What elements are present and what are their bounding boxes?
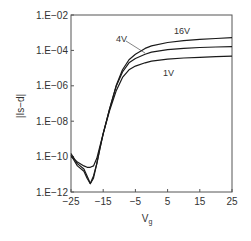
y-tick-label: 1.E−08 bbox=[36, 116, 68, 127]
series-label-4v: 4V bbox=[116, 34, 127, 44]
x-tick-label: −25 bbox=[63, 196, 80, 207]
series-lines bbox=[71, 38, 232, 184]
x-axis-label: Vg bbox=[142, 213, 153, 226]
x-tick-label: 25 bbox=[226, 196, 238, 207]
x-tick-label: 5 bbox=[165, 196, 171, 207]
x-tick-label: 15 bbox=[194, 196, 206, 207]
y-tick-label: 1.E−10 bbox=[36, 151, 68, 162]
series-label-4v-leader bbox=[126, 41, 145, 53]
x-tick-label: −5 bbox=[130, 196, 142, 207]
y-tick-label: 1.E−04 bbox=[36, 45, 68, 56]
series-line-1v bbox=[71, 56, 232, 167]
y-axis-label: |Is−d| bbox=[15, 94, 26, 118]
series-label-16v: 16V bbox=[174, 26, 190, 36]
chart: 1.E−121.E−101.E−081.E−061.E−041.E−02 −25… bbox=[0, 0, 251, 241]
y-tick-label: 1.E−02 bbox=[36, 10, 68, 21]
y-axis-ticks: 1.E−121.E−101.E−081.E−061.E−041.E−02 bbox=[36, 10, 74, 198]
plot-frame bbox=[71, 15, 232, 192]
x-tick-label: −15 bbox=[95, 196, 112, 207]
series-label-1v: 1V bbox=[163, 68, 174, 78]
y-tick-label: 1.E−06 bbox=[36, 80, 68, 91]
